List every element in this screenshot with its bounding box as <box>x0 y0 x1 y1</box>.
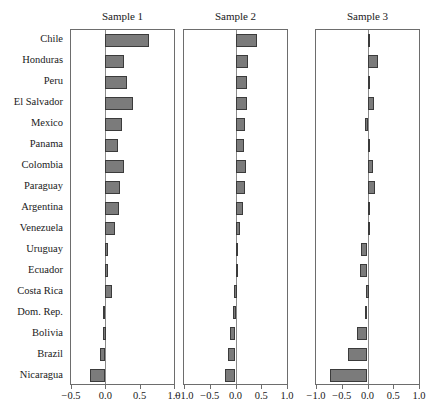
category-label-bolivia: Bolivia <box>0 327 63 338</box>
bar-colombia <box>368 160 373 173</box>
bar-mexico <box>236 118 246 131</box>
bar-el-salvador <box>236 97 248 110</box>
bar-venezuela <box>368 222 371 235</box>
category-label-honduras: Honduras <box>0 54 63 65</box>
x-tick-mark <box>287 385 288 389</box>
bar-argentina <box>236 202 243 215</box>
bar-costa-rica <box>366 285 369 298</box>
bar-uruguay <box>236 243 239 256</box>
bar-honduras <box>105 55 124 68</box>
bar-ecuador <box>105 264 108 277</box>
category-label-panama: Panama <box>0 138 63 149</box>
x-tick-mark <box>174 385 175 389</box>
panel-title-sample-2: Sample 2 <box>183 8 288 24</box>
panel-title-sample-3: Sample 3 <box>315 8 420 24</box>
bar-panama <box>105 139 118 152</box>
x-axis-sample-2: −1.0−0.50.00.51.0 <box>183 385 288 414</box>
category-label-ecuador: Ecuador <box>0 264 63 275</box>
bar-colombia <box>105 160 124 173</box>
bar-argentina <box>368 202 371 215</box>
bar-uruguay <box>105 243 108 256</box>
x-tick-mark <box>236 385 237 389</box>
bar-mexico <box>105 118 121 131</box>
bar-bolivia <box>357 327 367 340</box>
category-label-uruguay: Uruguay <box>0 243 63 254</box>
bar-chile <box>368 34 371 47</box>
bar-brazil <box>348 348 368 361</box>
plot-panel-sample-2 <box>183 29 288 385</box>
category-label-brazil: Brazil <box>0 348 63 359</box>
category-label-peru: Peru <box>0 75 63 86</box>
category-label-nicaragua: Nicaragua <box>0 369 63 380</box>
category-label-costa-rica: Costa Rica <box>0 285 63 296</box>
x-axis-sample-3: −1.0−0.50.00.51.0 <box>315 385 420 414</box>
bar-peru <box>368 76 371 89</box>
category-label-argentina: Argentina <box>0 201 63 212</box>
bar-el-salvador <box>105 97 132 110</box>
x-tick-mark <box>105 385 106 389</box>
bar-panama <box>236 139 244 152</box>
bar-honduras <box>368 55 378 68</box>
category-label-el-salvador: El Salvador <box>0 96 63 107</box>
x-axis-sample-1: −0.50.00.51.0 <box>70 385 175 414</box>
panel-title-sample-1: Sample 1 <box>70 8 175 24</box>
bar-panama <box>368 139 371 152</box>
x-tick-mark <box>210 385 211 389</box>
category-label-mexico: Mexico <box>0 117 63 128</box>
bar-peru <box>236 76 248 89</box>
bar-paraguay <box>368 181 376 194</box>
bar-costa-rica <box>105 285 112 298</box>
bar-paraguay <box>236 181 246 194</box>
bar-mexico <box>365 118 368 131</box>
bar-bolivia <box>103 327 106 340</box>
category-label-dom-rep: Dom. Rep. <box>0 306 63 317</box>
x-tick-mark <box>342 385 343 389</box>
bar-bolivia <box>230 327 235 340</box>
bar-brazil <box>100 348 105 361</box>
multi-panel-bar-chart: ChileHondurasPeruEl SalvadorMexicoPanama… <box>0 0 438 414</box>
bar-costa-rica <box>234 285 237 298</box>
bar-uruguay <box>361 243 368 256</box>
bar-dom-rep <box>103 306 106 319</box>
bar-honduras <box>236 55 249 68</box>
x-tick-mark <box>393 385 394 389</box>
plot-panel-sample-1 <box>70 29 175 385</box>
category-label-venezuela: Venezuela <box>0 222 63 233</box>
x-tick-mark <box>140 385 141 389</box>
x-tick-mark <box>261 385 262 389</box>
category-label-paraguay: Paraguay <box>0 180 63 191</box>
category-label-chile: Chile <box>0 33 63 44</box>
x-tick-label: 1.0 <box>399 390 438 402</box>
bar-nicaragua <box>90 369 105 382</box>
bar-argentina <box>105 202 119 215</box>
bar-el-salvador <box>368 97 375 110</box>
bar-nicaragua <box>225 369 235 382</box>
category-label-colombia: Colombia <box>0 159 63 170</box>
bar-ecuador <box>236 264 239 277</box>
bar-venezuela <box>236 222 241 235</box>
bar-chile <box>105 34 148 47</box>
bar-brazil <box>228 348 236 361</box>
bar-dom-rep <box>233 306 236 319</box>
x-tick-mark <box>184 385 185 389</box>
bar-chile <box>236 34 258 47</box>
category-axis-labels: ChileHondurasPeruEl SalvadorMexicoPanama… <box>0 29 66 385</box>
bar-paraguay <box>105 181 119 194</box>
x-tick-mark <box>419 385 420 389</box>
bar-peru <box>105 76 126 89</box>
bar-nicaragua <box>330 369 367 382</box>
bar-venezuela <box>105 222 115 235</box>
x-tick-mark <box>316 385 317 389</box>
bar-dom-rep <box>365 306 368 319</box>
plot-panel-sample-3 <box>315 29 420 385</box>
x-tick-mark <box>71 385 72 389</box>
bar-ecuador <box>360 264 367 277</box>
bar-colombia <box>236 160 246 173</box>
x-tick-mark <box>368 385 369 389</box>
